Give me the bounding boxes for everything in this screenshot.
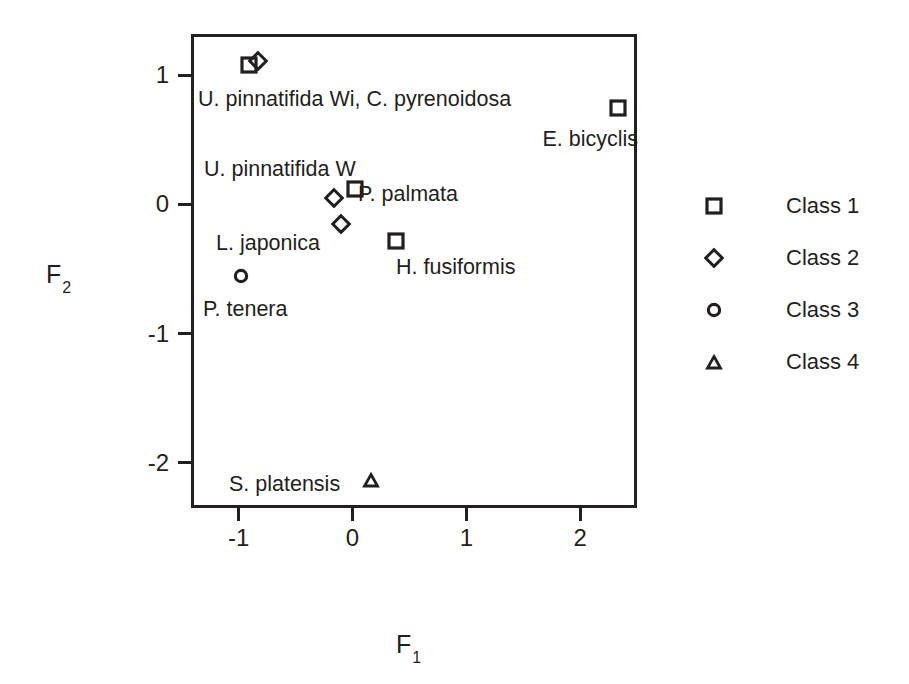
point-annotation: H. fusiformis xyxy=(396,257,515,279)
y-tick xyxy=(178,461,191,464)
x-tick xyxy=(237,508,240,521)
x-tick-label: -1 xyxy=(228,526,249,550)
legend-row: Class 2 xyxy=(700,232,900,284)
y-tick-label: -2 xyxy=(148,451,169,475)
point-annotation: P. palmata xyxy=(358,184,458,206)
point-annotation: P. tenera xyxy=(203,299,287,321)
y-axis-title-subscript: 2 xyxy=(62,279,71,296)
x-tick xyxy=(579,508,582,521)
legend-label: Class 2 xyxy=(786,247,859,269)
y-tick xyxy=(178,74,191,77)
x-tick xyxy=(465,508,468,521)
scatter-plot-figure: -1012 10-1-2 U. pinnatifida Wi, C. pyren… xyxy=(0,0,909,684)
x-tick xyxy=(351,508,354,521)
point-annotation: L. japonica xyxy=(216,233,320,255)
x-tick-label: 1 xyxy=(460,526,473,550)
point-annotation: U. pinnatifida W xyxy=(204,159,356,181)
y-axis-title: F2 xyxy=(46,262,70,292)
legend-marker-circle-icon xyxy=(705,301,723,319)
point-annotation: S. platensis xyxy=(229,474,340,496)
point-annotation: U. pinnatifida Wi, C. pyrenoidosa xyxy=(198,89,511,111)
x-tick-label: 2 xyxy=(573,526,586,550)
y-tick xyxy=(178,332,191,335)
legend-label: Class 4 xyxy=(786,351,859,373)
y-tick-label: 1 xyxy=(156,63,169,87)
x-axis-title-subscript: 1 xyxy=(412,649,421,666)
legend-row: Class 3 xyxy=(700,284,900,336)
y-tick-label: 0 xyxy=(156,192,169,216)
legend-row: Class 4 xyxy=(700,336,900,388)
x-axis-title: F1 xyxy=(396,632,420,662)
legend-marker-square-icon xyxy=(705,197,724,216)
x-tick-label: 0 xyxy=(346,526,359,550)
y-tick-label: -1 xyxy=(148,322,169,346)
legend: Class 1Class 2Class 3Class 4 xyxy=(700,180,900,388)
legend-marker-triangle-icon xyxy=(705,353,724,372)
legend-label: Class 1 xyxy=(786,195,859,217)
legend-row: Class 1 xyxy=(700,180,900,232)
point-annotation: E. bicyclis xyxy=(542,129,638,151)
legend-marker-diamond-icon xyxy=(704,248,725,269)
y-tick xyxy=(178,203,191,206)
legend-label: Class 3 xyxy=(786,299,859,321)
